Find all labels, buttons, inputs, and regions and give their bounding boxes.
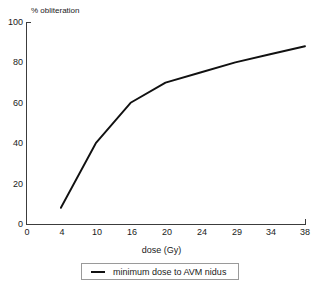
x-axis-title: dose (Gy)	[0, 245, 323, 256]
x-tick-label: 0	[15, 228, 39, 237]
legend-entry-label: minimum dose to AVM nidus	[113, 267, 226, 277]
x-tick-label: 20	[155, 228, 179, 237]
chart-figure: % obliteration 100 80 60 40 20 0 0 4 10 …	[0, 0, 323, 286]
x-tick-label-group: 0 4 10 16 20 24 29 34 38	[0, 228, 323, 242]
x-tick-label: 38	[293, 228, 317, 237]
legend-line-marker-icon	[91, 271, 105, 273]
x-tick-label: 29	[225, 228, 249, 237]
x-tick-label: 34	[259, 228, 283, 237]
x-tick-label: 10	[85, 228, 109, 237]
x-tick-label: 24	[190, 228, 214, 237]
series-line-minimum-dose-to-avm-nidus	[61, 46, 305, 208]
x-tick-label: 4	[50, 228, 74, 237]
chart-legend: minimum dose to AVM nidus	[81, 263, 239, 280]
series-plot-layer	[0, 0, 323, 286]
x-tick-label: 16	[120, 228, 144, 237]
